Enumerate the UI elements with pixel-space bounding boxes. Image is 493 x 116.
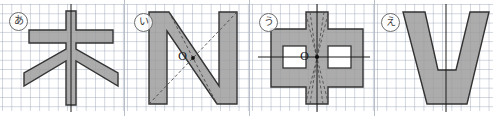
panel-label-u: う bbox=[259, 13, 278, 32]
center-point-label: O bbox=[178, 50, 187, 63]
panel-e: え bbox=[375, 0, 493, 116]
center-point-marker bbox=[315, 55, 319, 59]
center-point-label: O bbox=[300, 50, 309, 63]
panel-label-i: い bbox=[134, 13, 153, 32]
panel-a: あ bbox=[0, 0, 124, 116]
figure-root: あ O い bbox=[0, 0, 493, 116]
panel-label-a: あ bbox=[9, 12, 28, 31]
panel-i: O い bbox=[125, 0, 249, 116]
panel-u: O う bbox=[250, 0, 374, 116]
panel-label-e: え bbox=[381, 13, 400, 32]
center-point-marker bbox=[191, 56, 195, 60]
